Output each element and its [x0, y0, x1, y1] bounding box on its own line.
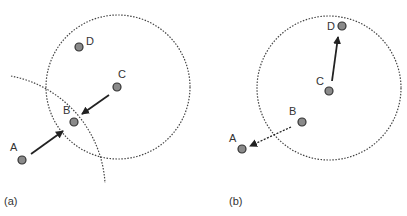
node-a: A: [229, 132, 246, 153]
arrow-c-to-d: [332, 37, 338, 81]
node-a: A: [10, 141, 26, 164]
panel-b: D C B A (b): [229, 16, 401, 207]
node-b: B: [63, 104, 78, 126]
range-arc-a: [11, 76, 105, 183]
caption-b: (b): [229, 195, 242, 207]
svg-text:D: D: [327, 20, 335, 32]
panel-a: D C B A (a): [4, 15, 190, 207]
node-c: C: [316, 75, 333, 95]
diagram-canvas: D C B A (a) D C B A (b): [0, 0, 407, 216]
svg-text:C: C: [316, 75, 324, 87]
node-d: D: [327, 20, 346, 32]
node-d: D: [75, 35, 94, 51]
svg-text:B: B: [289, 105, 296, 117]
svg-text:A: A: [10, 141, 18, 153]
svg-text:D: D: [86, 35, 94, 47]
svg-text:C: C: [118, 68, 126, 80]
node-b: B: [289, 105, 306, 126]
caption-a: (a): [4, 195, 17, 207]
svg-text:B: B: [63, 104, 70, 116]
arrow-a-to-b: [31, 131, 63, 154]
svg-text:A: A: [229, 132, 237, 144]
arrow-c-to-b: [82, 95, 109, 114]
node-c: C: [113, 68, 126, 91]
